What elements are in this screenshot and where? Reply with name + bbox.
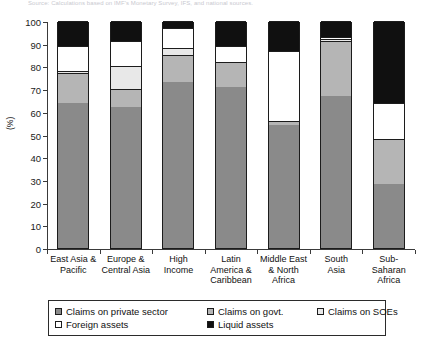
bar-segment-2-0 [163,82,193,248]
chart-plot-area: (%) 0102030405060708090100 [47,22,415,250]
bar-segment-1-0 [111,107,141,248]
y-tick-80 [43,67,47,68]
bar-segment-4-1 [269,121,299,126]
legend-item-1[interactable]: Claims on govt. [207,307,283,317]
bar-4[interactable] [268,22,300,249]
y-axis-line [47,22,48,250]
bar-3[interactable] [215,22,247,249]
y-tick-label-100: 100 [25,18,41,28]
y-tick-label-20: 20 [30,199,41,209]
legend-label-2: Claims on SOEs [328,307,398,317]
y-tick-60 [43,113,47,114]
bar-segment-3-1 [216,62,246,87]
bar-segment-2-4 [163,21,193,28]
bar-segment-6-0 [374,184,404,248]
y-tick-20 [43,204,47,205]
bar-segment-0-3 [58,46,88,71]
x-axis-label-line: Africa [252,275,316,286]
y-tick-label-50: 50 [30,131,41,141]
legend-label-1: Claims on govt. [218,307,283,317]
legend-swatch-icon-2 [317,308,324,315]
y-tick-90 [43,45,47,46]
legend-swatch-icon-3 [55,321,62,328]
y-tick-label-80: 80 [30,63,41,73]
legend-item-4[interactable]: Liquid assets [207,320,273,330]
bar-segment-5-4 [321,21,351,37]
y-axis-title: (%) [5,117,15,130]
y-tick-30 [43,181,47,182]
bar-segment-5-2 [321,39,351,41]
x-axis-label-line: Africa [357,275,421,286]
bar-segment-2-1 [163,55,193,82]
bar-segment-0-4 [58,21,88,46]
y-tick-label-40: 40 [30,154,41,164]
bar-segment-3-3 [216,46,246,62]
y-tick-label-30: 30 [30,176,41,186]
bar-segment-2-2 [163,48,193,55]
y-tick-label-90: 90 [30,40,41,50]
bar-segment-3-4 [216,21,246,46]
legend-swatch-icon-4 [207,321,214,328]
legend-label-4: Liquid assets [218,320,273,330]
source-note-bottom [20,340,430,349]
legend-swatch-icon-1 [207,308,214,315]
x-axis-line [47,249,415,250]
bar-segment-4-4 [269,21,299,51]
bar-segment-1-2 [111,66,141,89]
y-tick-70 [43,90,47,91]
y-tick-label-10: 10 [30,222,41,232]
legend-swatch-icon-0 [55,308,62,315]
bar-segment-1-1 [111,89,141,107]
bar-segment-6-1 [374,139,404,184]
bar-segment-6-4 [374,21,404,103]
bar-segment-3-0 [216,87,246,248]
source-note-top: Source: Calculations based on IMF's Mone… [28,0,428,9]
legend-item-2[interactable]: Claims on SOEs [317,307,398,317]
bar-segment-5-3 [321,37,351,39]
y-tick-label-0: 0 [36,245,41,255]
bar-segment-6-3 [374,103,404,139]
bar-segment-5-1 [321,41,351,95]
bar-0[interactable] [57,22,89,249]
bar-segment-0-2 [58,71,88,73]
x-axis-label-line: Sub- [357,254,421,265]
bar-segment-4-3 [269,51,299,121]
legend-row-2: Foreign assetsLiquid assets [55,318,379,331]
bar-segment-1-4 [111,21,141,41]
y-tick-40 [43,158,47,159]
y-tick-label-70: 70 [30,86,41,96]
bar-5[interactable] [320,22,352,249]
x-axis-label-line: Saharan [357,265,421,276]
bar-1[interactable] [110,22,142,249]
legend-label-0: Claims on private sector [66,307,168,317]
y-tick-label-60: 60 [30,108,41,118]
bar-segment-0-0 [58,103,88,248]
bar-segment-2-3 [163,28,193,48]
legend-label-3: Foreign assets [66,320,128,330]
chart-legend: Claims on private sectorClaims on govt.C… [48,300,386,336]
bar-segment-1-3 [111,41,141,66]
x-axis-label-6: Sub-SaharanAfrica [357,254,421,286]
bar-6[interactable] [373,22,405,249]
y-tick-50 [43,136,47,137]
bar-segment-5-0 [321,96,351,248]
bar-segment-0-1 [58,73,88,103]
bar-segment-4-0 [269,125,299,248]
legend-item-3[interactable]: Foreign assets [55,320,128,330]
legend-row-1: Claims on private sectorClaims on govt.C… [55,305,379,318]
y-tick-10 [43,226,47,227]
bar-2[interactable] [162,22,194,249]
y-tick-100 [43,22,47,23]
legend-item-0[interactable]: Claims on private sector [55,307,168,317]
